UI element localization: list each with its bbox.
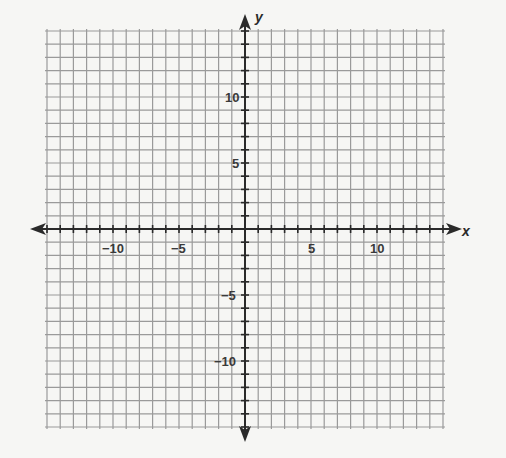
y-tick-label-neg10: −10 xyxy=(214,355,236,368)
y-tick-label-neg5: −5 xyxy=(221,289,236,302)
x-axis-name: x xyxy=(462,224,470,238)
x-tick-label-5: 5 xyxy=(308,242,315,255)
x-tick-label-10: 10 xyxy=(370,242,384,255)
x-tick-label-neg10: −10 xyxy=(102,242,124,255)
grid-canvas xyxy=(0,0,506,458)
y-tick-label-5: 5 xyxy=(232,157,239,170)
coordinate-plane: y x −10 −5 5 10 10 5 −5 −10 xyxy=(0,0,506,458)
x-tick-label-neg5: −5 xyxy=(171,242,186,255)
y-tick-label-10: 10 xyxy=(225,91,239,104)
y-axis-name: y xyxy=(255,10,263,24)
